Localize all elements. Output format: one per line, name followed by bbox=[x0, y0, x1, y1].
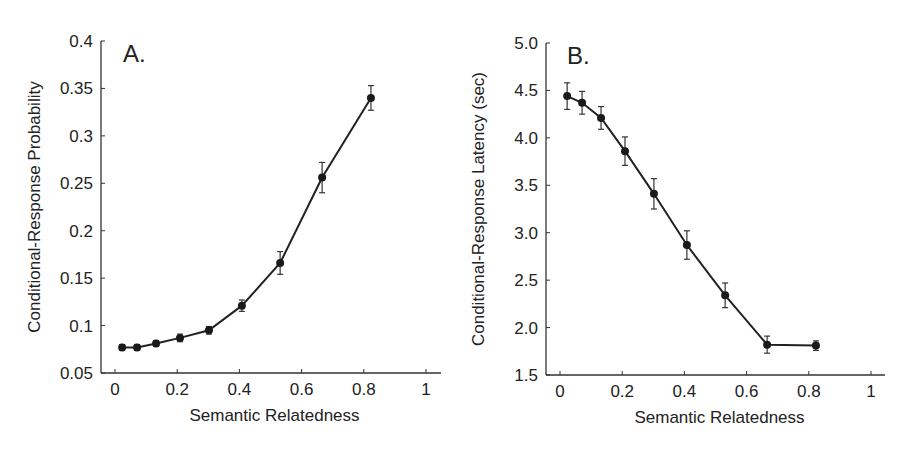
x-tick-label: 0.2 bbox=[610, 382, 634, 401]
data-point bbox=[563, 92, 571, 100]
y-tick-label: 0.4 bbox=[69, 32, 93, 51]
x-tick-label: 0.4 bbox=[673, 382, 697, 401]
x-tick-label: 1 bbox=[866, 382, 875, 401]
x-tick-label: 0 bbox=[555, 382, 564, 401]
x-tick-label: 0.8 bbox=[797, 382, 821, 401]
panel-label: A. bbox=[123, 40, 146, 67]
x-tick-label: 1 bbox=[421, 380, 430, 399]
x-axis-title: Semantic Relatedness bbox=[634, 408, 804, 427]
chart-panel-a: 0.050.10.150.20.250.30.350.400.20.40.60.… bbox=[25, 32, 441, 425]
data-point bbox=[118, 343, 126, 351]
data-point bbox=[318, 174, 326, 182]
y-tick-label: 1.5 bbox=[514, 366, 538, 385]
chart-panel-b: 1.52.02.53.03.54.04.55.000.20.40.60.81Se… bbox=[469, 34, 885, 427]
data-point bbox=[238, 302, 246, 310]
x-tick-label: 0.6 bbox=[290, 380, 314, 399]
x-tick-label: 0.8 bbox=[352, 380, 376, 399]
y-tick-label: 0.1 bbox=[69, 317, 93, 336]
data-point bbox=[597, 114, 605, 122]
y-axis-title: Conditional-Response Latency (sec) bbox=[469, 72, 488, 346]
panel-label: B. bbox=[567, 42, 590, 69]
figure: 0.050.10.150.20.250.30.350.400.20.40.60.… bbox=[0, 0, 907, 449]
y-tick-label: 4.5 bbox=[514, 81, 538, 100]
data-point bbox=[650, 190, 658, 198]
data-line bbox=[122, 98, 371, 347]
x-tick-label: 0 bbox=[110, 380, 119, 399]
y-tick-label: 3.0 bbox=[514, 224, 538, 243]
data-point bbox=[721, 291, 729, 299]
data-point bbox=[205, 326, 213, 334]
data-point bbox=[621, 147, 629, 155]
y-tick-label: 3.5 bbox=[514, 176, 538, 195]
x-tick-label: 0.4 bbox=[228, 380, 252, 399]
data-point bbox=[133, 343, 141, 351]
y-axis-title: Conditional-Response Probability bbox=[25, 81, 44, 333]
y-tick-label: 0.3 bbox=[69, 127, 93, 146]
data-point bbox=[367, 94, 375, 102]
y-tick-label: 0.35 bbox=[60, 79, 93, 98]
x-tick-label: 0.6 bbox=[735, 382, 759, 401]
y-tick-label: 0.15 bbox=[60, 269, 93, 288]
data-point bbox=[578, 99, 586, 107]
data-point bbox=[812, 342, 820, 350]
y-tick-label: 2.5 bbox=[514, 271, 538, 290]
data-point bbox=[763, 341, 771, 349]
y-tick-label: 0.25 bbox=[60, 174, 93, 193]
y-tick-label: 5.0 bbox=[514, 34, 538, 53]
data-line bbox=[567, 96, 816, 345]
data-point bbox=[683, 241, 691, 249]
y-tick-label: 0.2 bbox=[69, 222, 93, 241]
y-tick-label: 2.0 bbox=[514, 319, 538, 338]
y-tick-label: 0.05 bbox=[60, 364, 93, 383]
data-point bbox=[276, 259, 284, 267]
data-point bbox=[152, 340, 160, 348]
x-tick-label: 0.2 bbox=[165, 380, 189, 399]
y-tick-label: 4.0 bbox=[514, 129, 538, 148]
data-point bbox=[176, 334, 184, 342]
x-axis-title: Semantic Relatedness bbox=[189, 406, 359, 425]
